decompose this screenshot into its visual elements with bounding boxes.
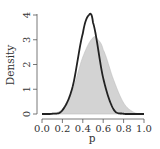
x-tick-label: 0.0 <box>34 123 50 134</box>
y-tick-label: 0 <box>21 111 32 117</box>
y-tick-label: 4 <box>21 12 32 18</box>
y-tick-label: 1 <box>21 86 32 92</box>
density-chart: 01234 Density 0.00.20.40.60.81.0 p <box>0 0 160 149</box>
y-tick-label: 3 <box>21 37 32 43</box>
y-axis-title: Density <box>4 45 16 85</box>
x-tick-label: 1.0 <box>136 123 152 134</box>
plot-area <box>42 14 144 114</box>
y-axis: 01234 Density <box>4 12 37 117</box>
x-tick-label: 0.8 <box>116 123 132 134</box>
y-tick-label: 2 <box>21 61 32 67</box>
x-tick-label: 0.6 <box>95 123 111 134</box>
x-axis: 0.00.20.40.60.81.0 p <box>34 119 152 144</box>
x-axis-title: p <box>89 132 96 144</box>
x-tick-label: 0.2 <box>54 123 70 134</box>
filled-density-area <box>42 37 144 114</box>
